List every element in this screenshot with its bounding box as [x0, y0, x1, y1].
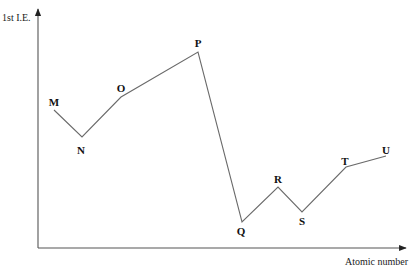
point-label-t: T [341, 155, 349, 167]
point-label-s: S [299, 215, 305, 227]
point-label-m: M [49, 96, 60, 108]
x-axis-label: Atomic number [345, 256, 409, 267]
point-labels: MNOPQRSTU [49, 37, 390, 237]
ionization-energy-line [54, 52, 386, 222]
point-label-p: P [195, 37, 202, 49]
point-label-u: U [382, 144, 390, 156]
axes: 1st I.E. Atomic number [2, 9, 409, 267]
point-label-n: N [77, 144, 85, 156]
point-label-q: Q [237, 225, 246, 237]
y-axis-label: 1st I.E. [2, 12, 31, 23]
point-label-o: O [117, 82, 126, 94]
point-label-r: R [274, 173, 283, 185]
ionization-energy-chart: 1st I.E. Atomic number MNOPQRSTU [0, 0, 414, 268]
